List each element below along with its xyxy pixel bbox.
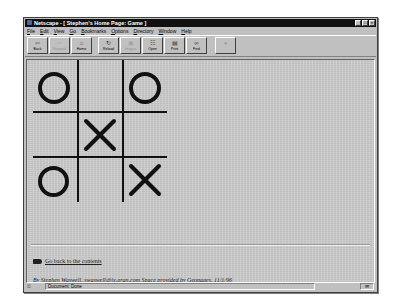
security-key-icon: ⚿: [27, 284, 37, 289]
images-button[interactable]: ▣ Images: [120, 37, 141, 54]
back-to-contents-link[interactable]: Go back to the contents: [45, 258, 102, 264]
tic-tac-toe-board: [33, 60, 169, 202]
cell-2-2-x-mark[interactable]: [128, 163, 162, 197]
menu-view[interactable]: View: [54, 27, 65, 35]
back-button[interactable]: ⇦ Back: [27, 37, 48, 54]
cell-2-1-empty[interactable]: [79, 158, 121, 202]
open-icon: ☷: [149, 40, 157, 46]
pointing-hand-icon: [33, 259, 42, 264]
forward-button[interactable]: ⇨ Forward: [49, 37, 70, 54]
cell-0-0-o-mark[interactable]: [38, 72, 70, 104]
home-icon: ⌂: [78, 40, 86, 46]
menu-bar: File Edit View Go Bookmarks Options Dire…: [27, 27, 192, 35]
horizontal-rule: [31, 244, 370, 246]
menu-directory[interactable]: Directory: [133, 27, 153, 35]
find-button[interactable]: ∞ Find: [186, 37, 207, 54]
menu-bookmarks[interactable]: Bookmarks: [81, 27, 106, 35]
menu-go[interactable]: Go: [69, 27, 76, 35]
close-button[interactable]: ×: [369, 20, 375, 26]
reload-button[interactable]: ↻ Reload: [98, 37, 119, 54]
browser-window: Netscape - [ Stephen's Home Page: Game ]…: [23, 17, 378, 293]
cell-0-2-o-mark[interactable]: [129, 72, 161, 104]
status-text: Document: Done: [45, 283, 315, 290]
menu-options[interactable]: Options: [111, 27, 128, 35]
cell-1-1-x-mark[interactable]: [83, 118, 117, 152]
cell-0-1-empty[interactable]: [79, 60, 121, 110]
cell-1-0-empty[interactable]: [33, 113, 76, 155]
cell-1-2-empty[interactable]: [124, 113, 167, 155]
page-content: Go back to the contents By Stephen Waswe…: [26, 59, 375, 283]
mail-icon[interactable]: ✉: [360, 283, 374, 290]
stop-button[interactable]: ●: [215, 37, 236, 54]
menu-help[interactable]: Help: [181, 27, 191, 35]
window-title: Netscape - [ Stephen's Home Page: Game ]: [34, 20, 146, 26]
cell-2-0-o-mark[interactable]: [38, 166, 69, 197]
reload-icon: ↻: [105, 40, 113, 46]
maximize-button[interactable]: □: [362, 20, 368, 26]
print-button[interactable]: ▤ Print: [164, 37, 185, 54]
stop-icon: ●: [222, 40, 230, 46]
back-to-contents: Go back to the contents: [33, 258, 102, 264]
title-bar: Netscape - [ Stephen's Home Page: Game ]…: [25, 19, 376, 27]
forward-arrow-icon: ⇨: [56, 40, 64, 46]
menu-file[interactable]: File: [27, 27, 35, 35]
toolbar: ⇦ Back ⇨ Forward ⌂ Home ↻ Reload ▣ Image…: [25, 35, 376, 57]
open-button[interactable]: ☷ Open: [142, 37, 163, 54]
home-button[interactable]: ⌂ Home: [71, 37, 92, 54]
minimize-button[interactable]: _: [355, 20, 361, 26]
binoculars-icon: ∞: [193, 40, 201, 46]
menu-window[interactable]: Window: [158, 27, 176, 35]
netscape-app-icon: [27, 20, 32, 25]
back-arrow-icon: ⇦: [34, 40, 42, 46]
images-icon: ▣: [127, 40, 135, 46]
menu-edit[interactable]: Edit: [40, 27, 49, 35]
printer-icon: ▤: [171, 40, 179, 46]
status-bar: ⚿ Document: Done ✉: [25, 283, 376, 291]
